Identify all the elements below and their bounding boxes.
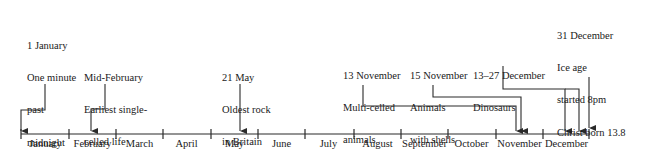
event-label-dinosaurs: 13–27 December Dinosaurs [473,49,545,125]
event-date: 21 May [222,73,271,84]
month-label-july: July [305,138,352,149]
month-label-november: November [496,138,543,149]
month-label-june: June [258,138,305,149]
event-text: Ice age [557,63,626,74]
event-text: Oldest rock [222,105,271,116]
month-label-april: April [163,138,210,149]
event-text: Dinosaurs [473,103,545,114]
event-date: 15 November [410,71,467,82]
month-label-march: March [116,138,163,149]
event-text: Earliest single- [84,105,147,116]
event-date: Mid-February [84,73,147,84]
month-label-october: October [448,138,495,149]
event-text: Multi-celled [343,103,400,114]
event-date: 13 November [343,71,400,82]
event-text: Animals [410,103,467,114]
month-label-february: February [69,138,116,149]
event-date: 1 January [27,41,76,52]
event-text: started 8pm [557,95,626,106]
month-label-august: August [354,138,401,149]
month-label-december: December [543,138,590,149]
month-label-september: September [401,138,448,149]
event-date: 31 December [557,31,626,42]
month-label-january: January [22,138,69,149]
event-text: Christ born 13.8 [557,128,626,139]
event-text: One minute [27,73,76,84]
month-label-may: May [211,138,258,149]
event-text: past [27,105,76,116]
event-label-birth-of-earth: 1 January One minute past midnight Birth… [27,19,76,154]
event-date: 13–27 December [473,71,545,82]
event-label-ice-age-christ: 31 December Ice age started 8pm Christ b… [557,9,626,154]
